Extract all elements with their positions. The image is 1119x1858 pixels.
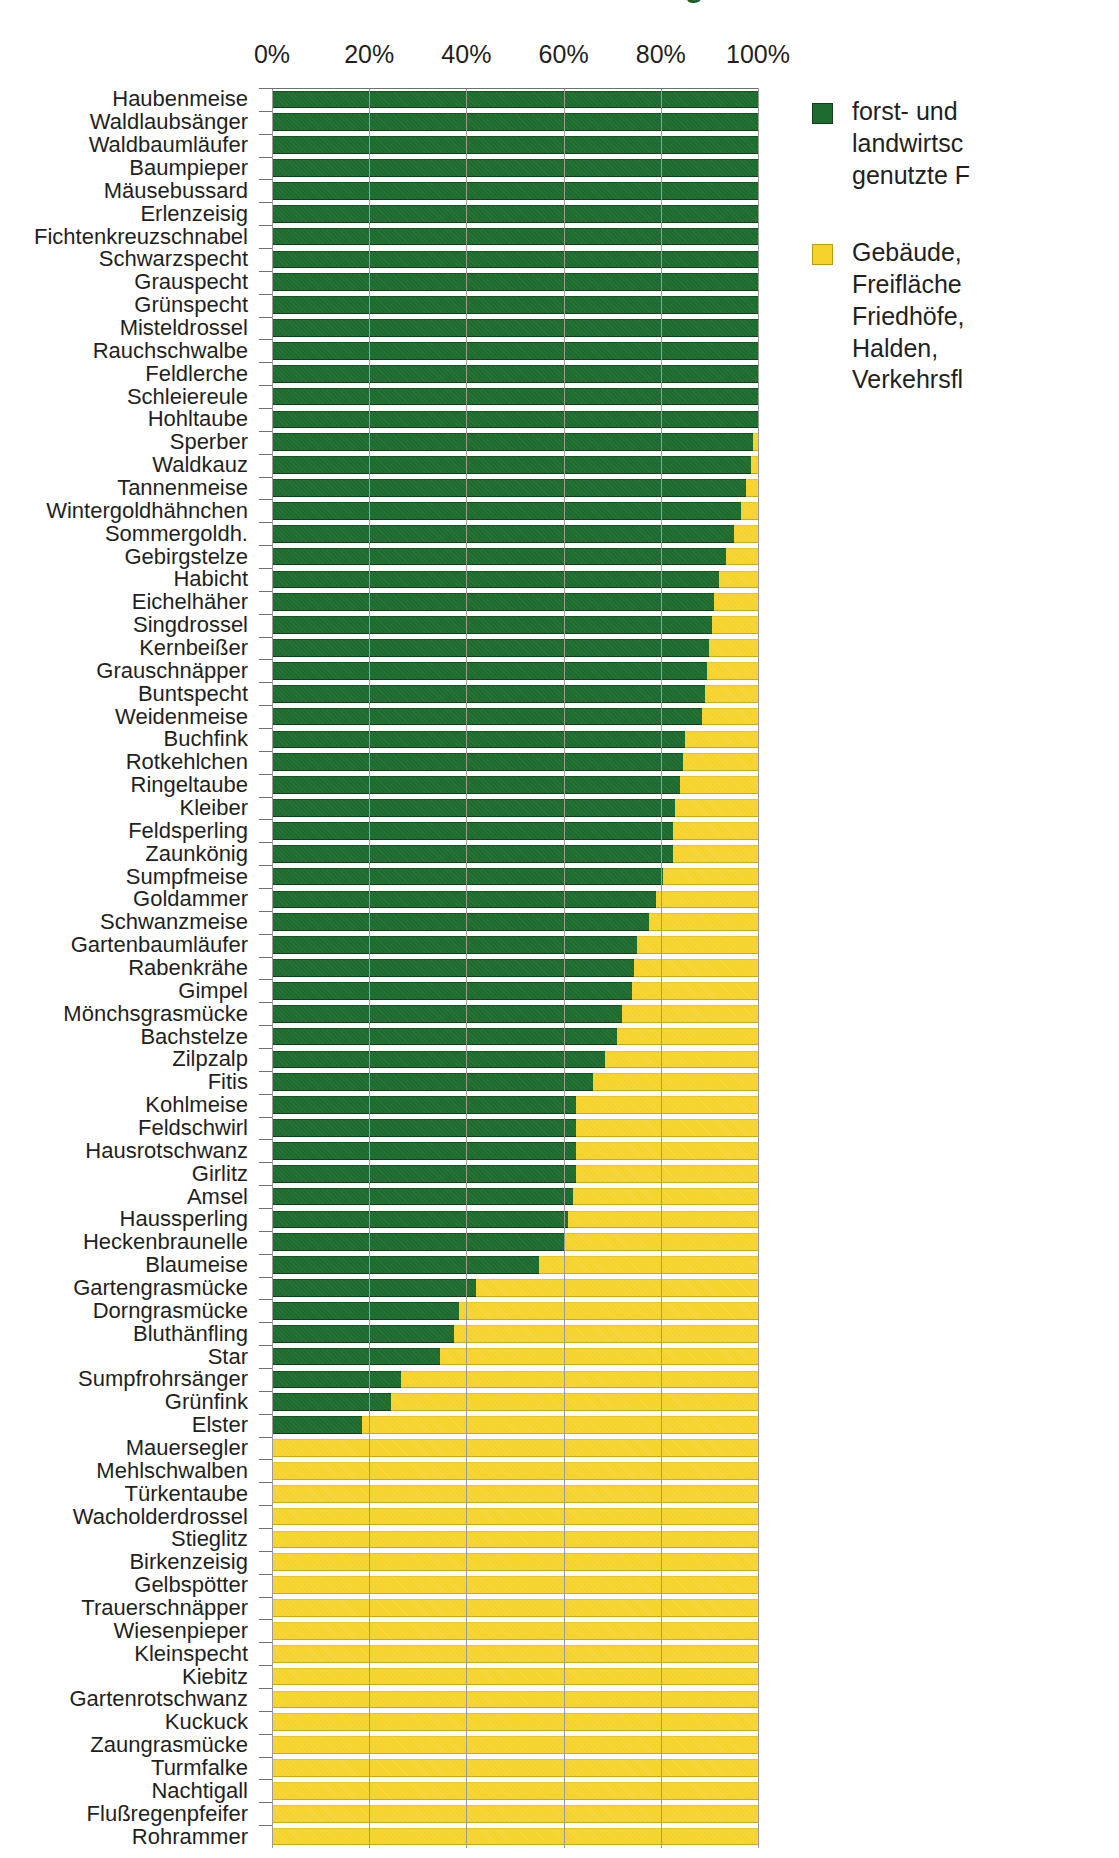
bar-row — [272, 1073, 758, 1091]
bar-segment-gebaeude-freiflaechen — [401, 1371, 758, 1389]
bar-segment-forst-landwirtschaft — [272, 1073, 593, 1091]
legend: forst- undlandwirtscgenutzte FGebäude,Fr… — [812, 96, 1119, 442]
category-label: Grünfink — [165, 1391, 248, 1413]
category-tick — [259, 1505, 272, 1506]
bar-segment-forst-landwirtschaft — [272, 91, 758, 109]
bar-segment-gebaeude-freiflaechen — [683, 753, 758, 771]
bar-segment-forst-landwirtschaft — [272, 753, 683, 771]
bar-segment-gebaeude-freiflaechen — [605, 1051, 758, 1069]
category-label: Gartenbaumläufer — [71, 934, 248, 956]
bar-segment-gebaeude-freiflaechen — [649, 913, 758, 931]
legend-label-line: Freifläche — [852, 269, 1119, 301]
category-tick — [259, 1002, 272, 1003]
bar-segment-gebaeude-freiflaechen — [476, 1279, 758, 1297]
bar-row — [272, 251, 758, 269]
category-tick — [259, 1757, 272, 1758]
bar-row — [272, 593, 758, 611]
category-label: Sommergoldh. — [105, 523, 248, 545]
bar-segment-gebaeude-freiflaechen — [685, 731, 758, 749]
category-label: Misteldrossel — [120, 317, 248, 339]
category-label: Eichelhäher — [132, 591, 248, 613]
legend-entry-series-gebaeude-freiflaechen[interactable]: Gebäude,FreiflächeFriedhöfe,Halden,Verke… — [812, 237, 1119, 396]
category-label: Rotkehlchen — [126, 751, 248, 773]
category-label: Birkenzeisig — [129, 1551, 248, 1573]
bar-row — [272, 1805, 758, 1823]
bar-segment-forst-landwirtschaft — [272, 1051, 605, 1069]
category-label: Haubenmeise — [112, 88, 248, 110]
category-tick — [259, 1574, 272, 1575]
category-tick — [259, 454, 272, 455]
bar-segment-forst-landwirtschaft — [272, 1256, 539, 1274]
bar-segment-gebaeude-freiflaechen — [576, 1165, 758, 1183]
category-label: Haussperling — [120, 1208, 248, 1230]
bar-segment-forst-landwirtschaft — [272, 1188, 573, 1206]
bar-row — [272, 708, 758, 726]
category-tick — [259, 568, 272, 569]
bar-row — [272, 776, 758, 794]
category-tick — [259, 431, 272, 432]
bar-segment-forst-landwirtschaft — [272, 1325, 454, 1343]
bar-segment-gebaeude-freiflaechen — [440, 1348, 758, 1366]
bar-row — [272, 1439, 758, 1457]
category-tick — [259, 1185, 272, 1186]
category-label: Türkentaube — [124, 1483, 248, 1505]
category-tick — [259, 614, 272, 615]
bar-segment-gebaeude-freiflaechen — [753, 433, 758, 451]
category-label: Blaumeise — [145, 1254, 248, 1276]
category-tick — [259, 225, 272, 226]
category-tick — [259, 111, 272, 112]
bar-segment-gebaeude-freiflaechen — [272, 1599, 758, 1617]
bar-row — [272, 1668, 758, 1686]
bar-segment-gebaeude-freiflaechen — [751, 456, 758, 474]
bar-row — [272, 868, 758, 886]
bar-segment-gebaeude-freiflaechen — [272, 1713, 758, 1731]
bar-segment-gebaeude-freiflaechen — [622, 1005, 758, 1023]
x-tick-label-100: 100% — [726, 40, 790, 69]
bar-segment-gebaeude-freiflaechen — [272, 1576, 758, 1594]
bar-segment-gebaeude-freiflaechen — [459, 1302, 758, 1320]
category-label: Sumpfmeise — [126, 866, 248, 888]
legend-entry-series-forst-landwirtschaft[interactable]: forst- undlandwirtscgenutzte F — [812, 96, 1119, 191]
category-tick — [259, 591, 272, 592]
bar-row — [272, 1553, 758, 1571]
category-label: Ringeltaube — [131, 774, 248, 796]
category-label: Mäusebussard — [104, 180, 248, 202]
bar-segment-forst-landwirtschaft — [272, 136, 758, 154]
bar-row — [272, 1622, 758, 1640]
category-tick — [259, 842, 272, 843]
category-tick — [259, 1642, 272, 1643]
bar-row — [272, 365, 758, 383]
bar-row — [272, 1576, 758, 1594]
category-tick — [259, 1734, 272, 1735]
category-tick — [259, 1482, 272, 1483]
bar-segment-forst-landwirtschaft — [272, 685, 705, 703]
category-tick — [259, 1117, 272, 1118]
bar-row — [272, 1051, 758, 1069]
category-label: Mauersegler — [126, 1437, 248, 1459]
bar-row — [272, 685, 758, 703]
bar-row — [272, 799, 758, 817]
category-label: Buntspecht — [138, 683, 248, 705]
category-tick — [259, 1802, 272, 1803]
category-label: Wiesenpieper — [113, 1620, 248, 1642]
bar-segment-forst-landwirtschaft — [272, 548, 726, 566]
legend-label-line: Verkehrsfl — [852, 364, 1119, 396]
x-tick-label-40: 40% — [441, 40, 491, 69]
bar-segment-forst-landwirtschaft — [272, 1165, 576, 1183]
bar-segment-forst-landwirtschaft — [272, 959, 634, 977]
bar-segment-gebaeude-freiflaechen — [656, 891, 758, 909]
category-label: Kleiber — [180, 797, 248, 819]
category-tick — [259, 751, 272, 752]
bar-row — [272, 1256, 758, 1274]
bar-segment-gebaeude-freiflaechen — [272, 1553, 758, 1571]
category-label: Weidenmeise — [115, 706, 248, 728]
y-axis-category-labels: HaubenmeiseWaldlaubsängerWaldbaumläuferB… — [0, 88, 272, 1848]
bar-segment-gebaeude-freiflaechen — [362, 1416, 758, 1434]
category-label: Feldsperling — [128, 820, 248, 842]
category-label: Kuckuck — [165, 1711, 248, 1733]
bar-segment-gebaeude-freiflaechen — [632, 982, 758, 1000]
bar-segment-forst-landwirtschaft — [272, 593, 714, 611]
bar-row — [272, 662, 758, 680]
bar-row — [272, 91, 758, 109]
bar-row — [272, 639, 758, 657]
